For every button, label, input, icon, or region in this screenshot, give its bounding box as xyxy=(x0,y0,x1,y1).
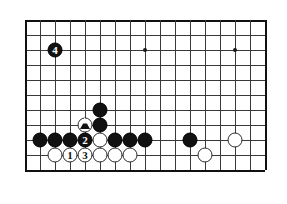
stone-black[interactable] xyxy=(183,133,198,148)
grid-line-vertical xyxy=(160,20,161,170)
grid-line-vertical xyxy=(235,20,236,170)
stone-black[interactable] xyxy=(33,133,48,148)
grid-line-vertical xyxy=(40,20,41,170)
stone-white[interactable] xyxy=(228,133,243,148)
stone-black[interactable] xyxy=(93,118,108,133)
stone-black-move-4[interactable]: 4 xyxy=(48,43,63,58)
stone-white[interactable] xyxy=(48,148,63,163)
grid-line-vertical xyxy=(145,20,146,170)
stone-black[interactable] xyxy=(138,133,153,148)
stone-white[interactable] xyxy=(108,148,123,163)
stone-white[interactable] xyxy=(93,133,108,148)
stone-white[interactable] xyxy=(198,148,213,163)
star-point xyxy=(143,48,147,52)
move-number-label: 3 xyxy=(82,150,88,161)
stone-white-move-1[interactable]: 1 xyxy=(63,148,78,163)
grid-line-vertical xyxy=(25,20,27,170)
grid-line-vertical xyxy=(190,20,191,170)
grid-line-vertical xyxy=(175,20,176,170)
triangle-marker-inner-icon xyxy=(82,117,88,123)
stone-black[interactable] xyxy=(48,133,63,148)
move-number-label: 4 xyxy=(52,45,58,56)
grid-line-vertical xyxy=(265,20,267,170)
move-number-label: 1 xyxy=(67,150,73,161)
stone-black[interactable] xyxy=(108,133,123,148)
stone-black[interactable] xyxy=(93,103,108,118)
triangle-marker-icon xyxy=(80,120,90,129)
stone-black-move-2[interactable]: 2 xyxy=(78,133,93,148)
stone-white-move-3[interactable]: 3 xyxy=(78,148,93,163)
stone-white[interactable] xyxy=(93,148,108,163)
grid-line-vertical xyxy=(220,20,221,170)
go-diagram-root: 4213 xyxy=(0,0,287,204)
stone-black[interactable] xyxy=(63,133,78,148)
grid-line-horizontal xyxy=(25,170,265,172)
move-number-label: 2 xyxy=(82,135,88,146)
grid-line-vertical xyxy=(250,20,251,170)
stone-black[interactable] xyxy=(123,133,138,148)
stone-white[interactable] xyxy=(123,148,138,163)
go-board[interactable]: 4213 xyxy=(0,0,287,204)
star-point xyxy=(233,48,237,52)
